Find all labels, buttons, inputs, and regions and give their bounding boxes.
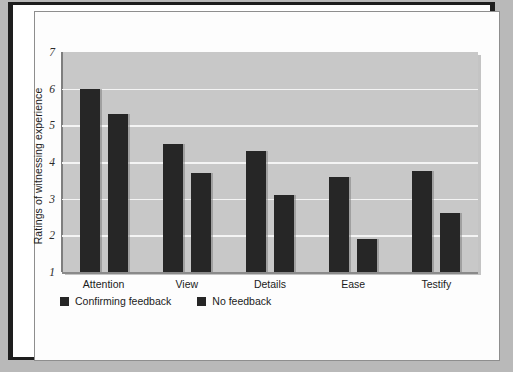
plot-area: 7654321 [62,52,478,272]
bar-details-no-feedback [274,195,294,272]
y-tick-label-3: 3 [49,193,55,205]
bar-testify-no-feedback [440,213,460,272]
legend-entry-no-feedback: No feedback [197,295,271,307]
legend-label: No feedback [212,295,271,307]
bar-chart: Ratings of witnessing experience 7654321… [0,0,513,372]
y-tick-label-7: 7 [49,46,55,58]
legend-entry-confirming-feedback: Confirming feedback [60,295,171,307]
x-axis-label-view: View [176,278,199,290]
bar-attention-no-feedback [108,114,128,272]
y-axis-title: Ratings of witnessing experience [32,66,44,266]
x-axis-label-testify: Testify [422,278,452,290]
bar-view-no-feedback [191,173,211,272]
bar-testify-confirming-feedback [412,171,432,272]
legend-label: Confirming feedback [75,295,171,307]
y-tick-label-2: 2 [49,229,55,241]
bar-attention-confirming-feedback [80,89,100,272]
y-tick-label-4: 4 [49,156,55,168]
bar-ease-no-feedback [357,239,377,272]
x-axis-label-details: Details [254,278,286,290]
y-tick-label-5: 5 [49,119,55,131]
bar-ease-confirming-feedback [329,177,349,272]
legend-swatch-icon [197,297,206,306]
x-axis-label-attention: Attention [83,278,124,290]
y-tick-label-1: 1 [49,266,55,278]
x-axis-label-ease: Ease [341,278,365,290]
gridline-6 [62,89,478,91]
figure-root: Ratings of witnessing experience 7654321… [0,0,513,372]
bar-view-confirming-feedback [163,144,183,272]
y-tick-label-6: 6 [49,83,55,95]
x-axis-line [62,272,478,274]
bar-details-confirming-feedback [246,151,266,272]
legend: Confirming feedbackNo feedback [60,295,271,307]
legend-swatch-icon [60,297,69,306]
